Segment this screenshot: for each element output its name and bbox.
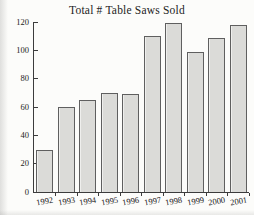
chart-title: Total # Table Saws Sold — [0, 4, 254, 16]
y-axis-tick — [34, 22, 38, 23]
scan-shadow-bottom — [0, 210, 254, 215]
y-axis-tick-label: 20 — [3, 159, 29, 168]
bar-1993 — [58, 107, 75, 192]
bar-2000 — [208, 38, 225, 192]
bar-1998 — [165, 23, 182, 192]
bar-chart-figure: Total # Table Saws Sold 0204060801001201… — [0, 0, 254, 215]
y-axis-tick-label: 100 — [3, 46, 29, 55]
bar-2001 — [230, 25, 247, 192]
y-axis-tick — [34, 50, 38, 51]
y-axis-tick-label: 80 — [3, 74, 29, 83]
plot-area: 0204060801001201992199319941995199619971… — [33, 22, 249, 193]
bar-1996 — [122, 94, 139, 192]
y-axis-tick-label: 60 — [3, 103, 29, 112]
bar-1995 — [101, 93, 118, 192]
y-axis-tick-label: 0 — [3, 188, 29, 197]
y-axis-tick — [34, 78, 38, 79]
bar-1997 — [144, 36, 161, 192]
y-axis-tick-label: 40 — [3, 131, 29, 140]
y-axis-tick-label: 120 — [3, 18, 29, 27]
bar-1994 — [79, 100, 96, 192]
y-axis-tick — [34, 107, 38, 108]
bar-1999 — [187, 52, 204, 192]
y-axis-tick — [34, 135, 38, 136]
bar-1992 — [36, 150, 53, 193]
